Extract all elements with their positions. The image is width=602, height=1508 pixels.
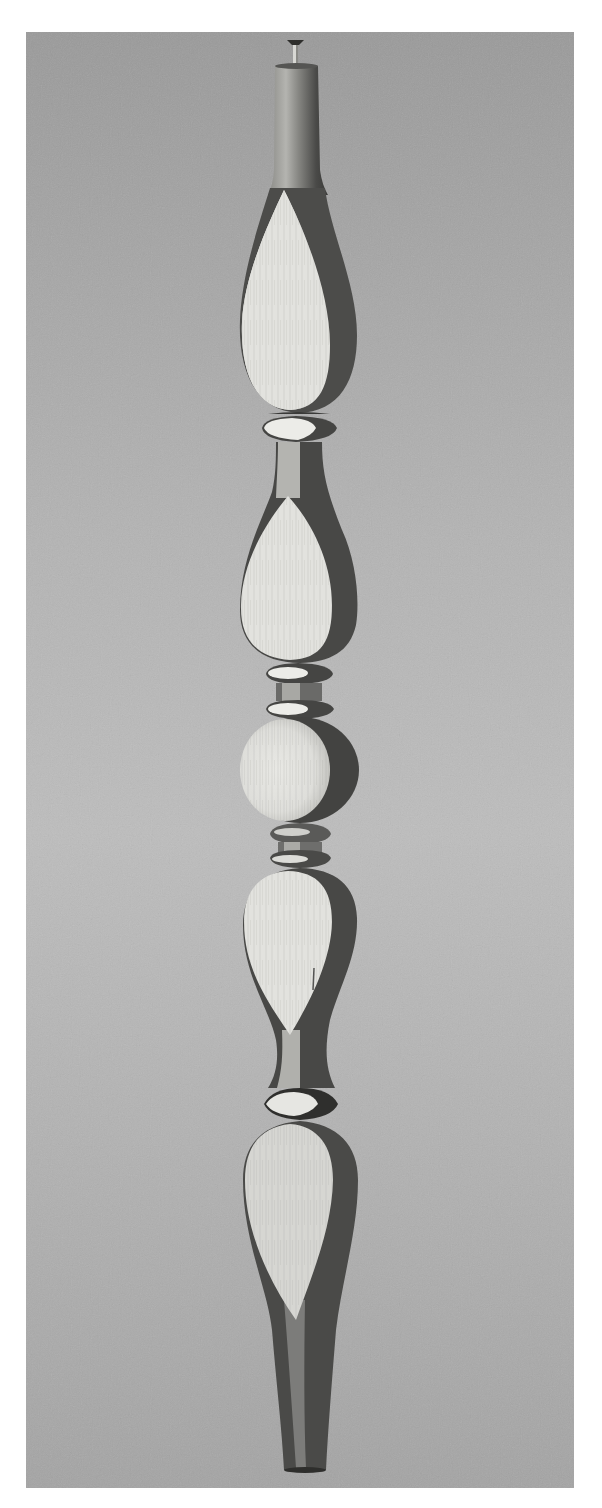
ball xyxy=(240,717,359,823)
spindle-photograph xyxy=(26,32,574,1488)
page xyxy=(0,0,602,1508)
double-collar-2 xyxy=(270,823,331,868)
spindle-illustration xyxy=(26,32,574,1488)
